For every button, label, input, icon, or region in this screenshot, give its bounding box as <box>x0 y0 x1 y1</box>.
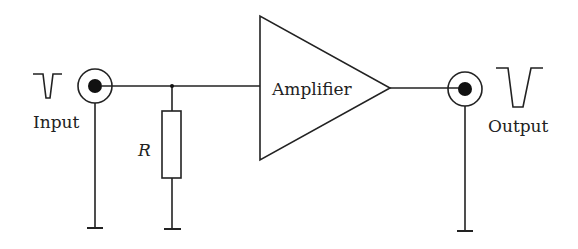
junction-dot <box>170 84 174 88</box>
input-connector-pin <box>88 79 102 93</box>
input-pulse-waveform <box>33 74 62 98</box>
output-pulse-waveform <box>496 68 543 107</box>
resistor-body <box>162 111 181 178</box>
input-label: Input <box>33 112 79 132</box>
resistor-label: R <box>137 140 151 160</box>
circuit-diagram: Input R Amplifier Output <box>0 0 578 249</box>
amplifier-label: Amplifier <box>271 79 353 99</box>
output-label: Output <box>488 116 549 136</box>
output-connector-pin <box>458 82 472 96</box>
